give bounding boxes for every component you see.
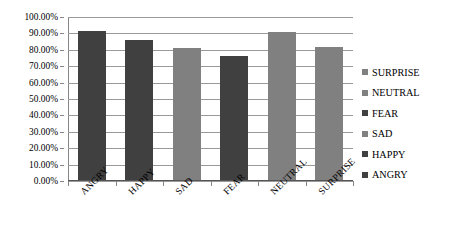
y-axis-tick-label: 70.00% [29, 61, 58, 71]
y-axis-tick-label: 100.00% [24, 12, 58, 22]
legend-item-angry[interactable]: ANGRY [362, 165, 450, 186]
bar-sad[interactable] [173, 48, 201, 181]
legend-swatch-icon [362, 172, 368, 178]
bar-neutral[interactable] [268, 32, 296, 181]
legend-item-surprise[interactable]: SURPRISE [362, 62, 450, 83]
y-axis-tick-label: 30.00% [29, 127, 58, 137]
legend-label: SAD [372, 128, 392, 139]
legend-label: HAPPY [372, 149, 405, 160]
bar-slot [258, 17, 306, 181]
legend-label: ANGRY [372, 169, 408, 180]
y-axis-tick-label: 0.00% [34, 176, 58, 186]
bar-chart: 100.00% 90.00% 80.00% 70.00% 60.00% 50.0… [0, 0, 450, 245]
y-axis-tick-label: 20.00% [29, 143, 58, 153]
chart-legend: SURPRISENEUTRALFEARSADHAPPYANGRY [362, 62, 450, 185]
legend-label: SURPRISE [372, 67, 420, 78]
y-axis-tick-label: 90.00% [29, 28, 58, 38]
x-axis-labels: ANGRYHAPPYSADFEARNEUTRALSURPRISE [68, 181, 368, 243]
bar-surprise[interactable] [315, 47, 343, 181]
legend-item-fear[interactable]: FEAR [362, 103, 450, 124]
bar-series [68, 17, 353, 181]
y-axis-tick [60, 181, 64, 182]
legend-swatch-icon [362, 151, 368, 157]
y-axis-tick [60, 83, 64, 84]
y-axis-tick-label: 50.00% [29, 94, 58, 104]
legend-swatch-icon [362, 110, 368, 116]
y-axis-tick [60, 17, 64, 18]
y-axis-tick-label: 60.00% [29, 78, 58, 88]
y-axis-tick [60, 33, 64, 34]
legend-swatch-icon [362, 90, 368, 96]
y-axis-labels: 100.00% 90.00% 80.00% 70.00% 60.00% 50.0… [0, 17, 64, 181]
plot-area [68, 17, 353, 181]
legend-item-neutral[interactable]: NEUTRAL [362, 83, 450, 104]
y-axis-tick [60, 66, 64, 67]
y-axis-tick [60, 50, 64, 51]
y-axis-tick [60, 148, 64, 149]
y-axis-tick-label: 10.00% [29, 160, 58, 170]
bar-fear[interactable] [220, 56, 248, 181]
bar-slot [211, 17, 259, 181]
bar-slot [116, 17, 164, 181]
y-axis-tick-label: 80.00% [29, 45, 58, 55]
y-axis-tick [60, 165, 64, 166]
legend-swatch-icon [362, 131, 368, 137]
legend-label: NEUTRAL [372, 87, 420, 98]
bar-slot [306, 17, 354, 181]
legend-item-happy[interactable]: HAPPY [362, 144, 450, 165]
legend-swatch-icon [362, 69, 368, 75]
bar-happy[interactable] [125, 40, 153, 181]
y-axis-tick [60, 99, 64, 100]
y-axis-tick [60, 115, 64, 116]
legend-label: FEAR [372, 108, 398, 119]
y-axis-tick-label: 40.00% [29, 110, 58, 120]
bar-slot [163, 17, 211, 181]
y-axis-tick [60, 132, 64, 133]
legend-item-sad[interactable]: SAD [362, 124, 450, 145]
bar-angry[interactable] [78, 31, 106, 181]
bar-slot [68, 17, 116, 181]
